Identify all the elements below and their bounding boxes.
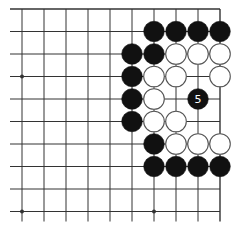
white-stone [188, 134, 209, 155]
black-stone [166, 156, 187, 177]
star-point [20, 210, 24, 214]
white-stone [210, 44, 231, 65]
black-stone [122, 66, 143, 87]
black-stone [210, 156, 231, 177]
black-stone [122, 111, 143, 132]
black-stone [188, 156, 209, 177]
black-stone [144, 156, 165, 177]
white-stone [166, 111, 187, 132]
white-stone [166, 134, 187, 155]
black-stone [144, 134, 165, 155]
white-stone [210, 134, 231, 155]
go-board-canvas: 5 [0, 0, 238, 232]
black-stone [188, 21, 209, 42]
grid-lines [10, 9, 220, 222]
black-stone [144, 44, 165, 65]
white-stone [188, 44, 209, 65]
go-board: 5 [0, 0, 238, 232]
white-stone [210, 66, 231, 87]
white-stone [166, 66, 187, 87]
black-stone [122, 89, 143, 110]
white-stone [144, 89, 165, 110]
black-stone [144, 21, 165, 42]
white-stone [144, 111, 165, 132]
white-stone [166, 44, 187, 65]
white-stone [144, 66, 165, 87]
star-point [152, 210, 156, 214]
black-stone [166, 21, 187, 42]
move-number-label: 5 [195, 93, 202, 106]
black-stone [122, 44, 143, 65]
black-stone [210, 21, 231, 42]
star-point [20, 75, 24, 79]
